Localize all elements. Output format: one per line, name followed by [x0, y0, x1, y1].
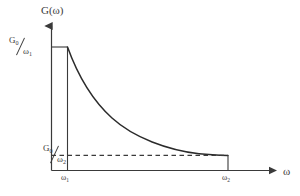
- decay-curve: [68, 47, 229, 155]
- y-tick-label-top: G0 ω1: [9, 36, 39, 58]
- figure-container: G(ω) ω G0 ω1 G0 ω2 ω1 ω2: [0, 0, 300, 196]
- y-tick-bottom-numerator: G0: [43, 144, 53, 153]
- y-axis-title: G(ω): [41, 5, 64, 16]
- y-tick-top-numerator: G0: [9, 36, 19, 45]
- plot-svg: [0, 0, 300, 196]
- x-tick-label-omega1: ω1: [61, 174, 69, 182]
- x-tick-label-omega2: ω2: [222, 174, 230, 182]
- x-axis-title: ω: [283, 166, 290, 177]
- y-tick-bottom-denominator: ω2: [57, 155, 66, 164]
- y-tick-label-bottom: G0 ω2: [43, 144, 73, 166]
- y-tick-top-denominator: ω1: [23, 47, 32, 56]
